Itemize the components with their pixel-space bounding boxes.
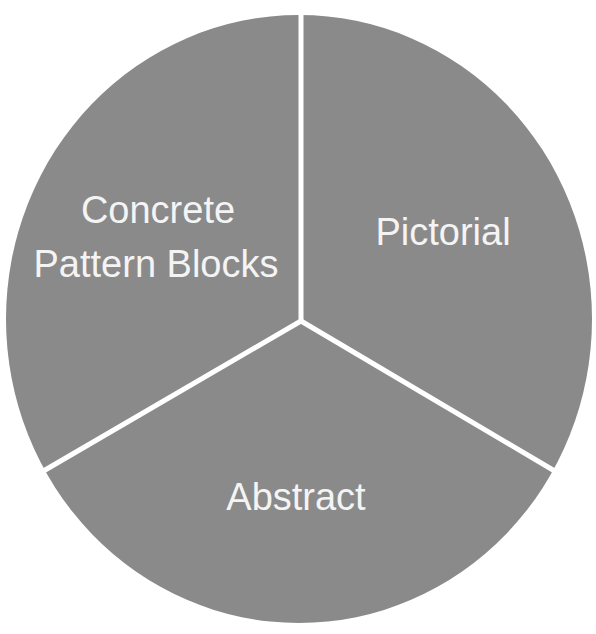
segment-label-concrete-line1: Concrete xyxy=(81,189,235,231)
segment-label-pictorial: Pictorial xyxy=(375,211,510,253)
segment-label-abstract: Abstract xyxy=(226,476,366,518)
segment-label-concrete-line2: Pattern Blocks xyxy=(34,243,279,285)
cpa-pie-diagram: Concrete Pattern Blocks Pictorial Abstra… xyxy=(0,0,596,634)
